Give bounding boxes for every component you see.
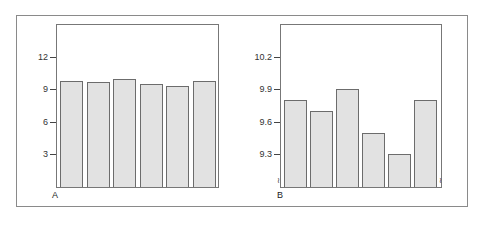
y-tick-label: 9.3 <box>242 149 272 159</box>
bar <box>193 81 216 187</box>
y-tick <box>50 57 56 58</box>
bar <box>166 86 189 187</box>
bar <box>284 100 307 187</box>
y-tick-label: 6 <box>18 117 48 127</box>
bar <box>87 82 110 187</box>
chart-a-plot-area <box>56 24 219 188</box>
chart-b-plot-area <box>280 24 442 188</box>
bar <box>140 84 163 187</box>
chart-b-panel-label: B <box>277 190 283 200</box>
chart-a-panel-label: A <box>52 190 58 200</box>
bar <box>310 111 333 187</box>
y-tick <box>274 57 280 58</box>
y-tick-label: 9.9 <box>242 84 272 94</box>
y-tick <box>274 89 280 90</box>
axis-break-icon-left: ≀ <box>277 177 280 185</box>
bar <box>113 79 136 187</box>
bar <box>336 89 359 187</box>
y-tick <box>50 122 56 123</box>
y-tick <box>274 122 280 123</box>
y-tick-label: 12 <box>18 52 48 62</box>
y-tick-label: 9 <box>18 84 48 94</box>
bar <box>414 100 437 187</box>
bar <box>362 133 385 187</box>
y-tick <box>50 89 56 90</box>
y-tick <box>274 154 280 155</box>
bar <box>388 154 411 187</box>
y-tick <box>50 154 56 155</box>
axis-break-icon-right: ≀ <box>439 177 442 185</box>
y-tick-label: 3 <box>18 149 48 159</box>
y-tick-label: 9.6 <box>242 117 272 127</box>
y-tick-label: 10.2 <box>242 52 272 62</box>
bar <box>60 81 83 187</box>
